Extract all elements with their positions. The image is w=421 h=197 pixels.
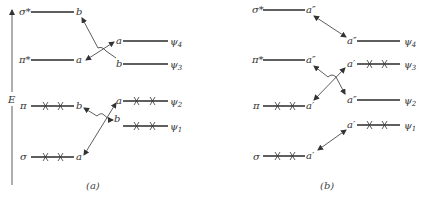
- symmetry-label: b: [76, 100, 82, 111]
- symmetry-label: a′: [306, 150, 315, 161]
- symmetry-label: a″: [306, 4, 316, 15]
- correlation-arrow-icon: [314, 66, 345, 94]
- symmetry-label: a: [116, 35, 122, 46]
- symmetry-label: a″: [347, 94, 357, 105]
- symmetry-label: a′: [347, 58, 356, 69]
- panel-a-caption: (a): [86, 180, 100, 191]
- correlation-arrows-a: [82, 18, 116, 155]
- correlation-arrows-b: [314, 16, 346, 150]
- energy-axis: E: [7, 10, 18, 185]
- level-pi-star-label: π*: [251, 54, 264, 65]
- symmetry-label: b: [116, 58, 122, 69]
- level-psi2-label: ψ2: [170, 96, 183, 109]
- level-psi3-label: ψ3: [170, 59, 183, 72]
- symmetry-label: a″: [306, 54, 316, 65]
- correlation-arrow-icon: [314, 68, 345, 100]
- level-psi1-label: ψ1: [170, 121, 182, 134]
- panel-b-caption: (b): [320, 180, 334, 191]
- symmetry-label: a′: [306, 100, 315, 111]
- symmetry-label: a: [76, 151, 82, 162]
- level-sigma-label: σ: [253, 151, 261, 162]
- symmetry-label: a′: [347, 119, 356, 130]
- level-sigma-label: σ: [20, 151, 28, 162]
- level-psi4-label: ψ4: [404, 36, 416, 49]
- correlation-arrow-icon: [86, 42, 114, 60]
- level-pi-label: π: [19, 100, 27, 111]
- level-pi-label: π: [252, 100, 260, 111]
- level-psi4-label: ψ4: [170, 36, 182, 49]
- correlation-arrow-icon: [318, 130, 346, 150]
- symmetry-label: a: [76, 54, 82, 65]
- orbital-correlation-diagram: E σ* b π* a π b σ a a ψ4 b ψ3 a: [0, 0, 421, 197]
- level-sigma-star-label: σ*: [19, 6, 31, 17]
- level-sigma-star-label: σ*: [252, 4, 264, 15]
- panel-b: σ* a″ π* a″ π a′ σ a′ a″ ψ4 a′ ψ3 a″: [251, 4, 417, 191]
- level-psi2-label: ψ2: [404, 95, 417, 108]
- symmetry-label: b: [114, 113, 120, 124]
- symmetry-label: a″: [347, 35, 357, 46]
- panel-a: σ* b π* a π b σ a a ψ4 b ψ3 a: [18, 6, 183, 191]
- level-psi1-label: ψ1: [404, 120, 416, 133]
- energy-axis-label: E: [7, 94, 16, 105]
- correlation-arrow-icon: [84, 108, 113, 120]
- symmetry-label: a: [116, 95, 122, 106]
- symmetry-label: b: [76, 6, 82, 17]
- level-psi3-label: ψ3: [404, 59, 417, 72]
- level-pi-star-label: π*: [18, 54, 31, 65]
- correlation-arrow-icon: [314, 16, 346, 37]
